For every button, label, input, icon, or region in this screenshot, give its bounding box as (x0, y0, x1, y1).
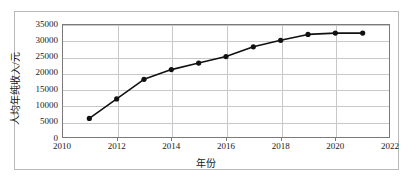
data-point-2014 (169, 67, 174, 72)
chart-figure: 05000100001500020000250003000035000 2010… (0, 0, 411, 186)
data-point-2013 (141, 77, 146, 82)
x-tick-mark-2018 (281, 138, 282, 141)
x-tick-mark-2014 (171, 138, 172, 141)
series-markers (87, 31, 366, 122)
data-point-2011 (87, 116, 92, 121)
data-point-2015 (196, 60, 201, 65)
data-point-2021 (360, 31, 365, 36)
data-series-line (0, 0, 411, 186)
data-point-2016 (223, 54, 228, 59)
data-point-2020 (333, 31, 338, 36)
series-polyline (89, 33, 362, 118)
data-point-2018 (278, 38, 283, 43)
data-point-2017 (251, 44, 256, 49)
x-tick-mark-2016 (226, 138, 227, 141)
data-point-2012 (114, 96, 119, 101)
x-tick-mark-2012 (117, 138, 118, 141)
x-tick-mark-2020 (335, 138, 336, 141)
data-point-2019 (305, 32, 310, 37)
